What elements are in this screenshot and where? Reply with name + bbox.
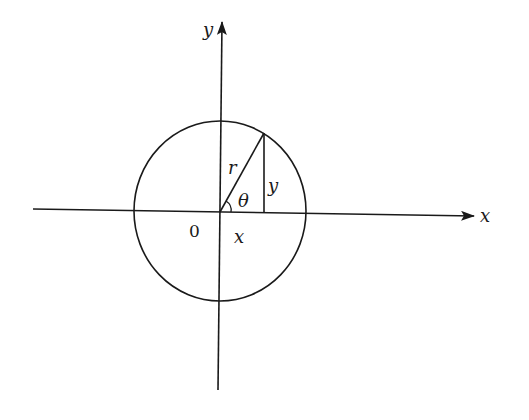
y-axis [218,22,222,390]
x-axis-label: x [480,205,490,226]
y-axis-label: y [202,19,214,40]
polar-coordinate-diagram: y x 0 r y x θ [0,0,529,420]
vertical-segment-label: y [267,175,279,196]
radius-label: r [228,157,238,178]
x-axis [33,209,474,216]
horizontal-segment-label: x [234,226,244,247]
angle-label: θ [238,190,249,211]
origin-label: 0 [189,221,200,241]
angle-arc [226,201,231,212]
